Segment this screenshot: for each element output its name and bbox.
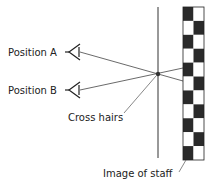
label-position-b: Position B: [8, 85, 57, 96]
label-staff: Image of staff: [103, 168, 174, 179]
parallax-diagram: Position A Position B Cross hairs Image …: [0, 0, 212, 187]
sight-line-b: [80, 68, 183, 90]
staff-leader: [179, 160, 186, 172]
cross-hairs-leader: [124, 76, 156, 113]
eye-icon-a: [65, 44, 80, 60]
label-cross-hairs: Cross hairs: [68, 112, 123, 123]
label-position-a: Position A: [8, 47, 57, 58]
crosshair-dot: [156, 72, 160, 76]
staff-image: [183, 7, 204, 160]
sight-line-a: [80, 52, 183, 81]
eye-icon-b: [65, 82, 80, 98]
